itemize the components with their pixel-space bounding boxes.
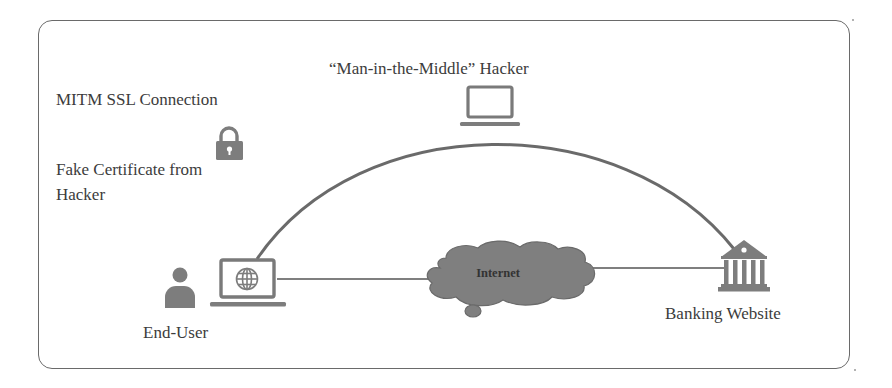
certificate-label-line1: Fake Certificate from (56, 161, 202, 178)
certificate-label-line2: Hacker (56, 186, 105, 203)
scan-speck (854, 369, 856, 371)
hacker-laptop-icon (460, 87, 520, 126)
scan-speck (852, 19, 854, 21)
bank-icon (718, 240, 770, 292)
user-icon (165, 268, 195, 309)
hacker-title: “Man-in-the-Middle” Hacker (329, 60, 529, 77)
end-user-laptop-icon (210, 260, 286, 307)
bank-label: Banking Website (665, 305, 781, 322)
cloud-label: Internet (476, 266, 521, 280)
connection-label: MITM SSL Connection (56, 91, 218, 108)
globe-icon (237, 269, 258, 290)
end-user-label: End-User (143, 324, 208, 341)
lock-icon (216, 128, 243, 160)
